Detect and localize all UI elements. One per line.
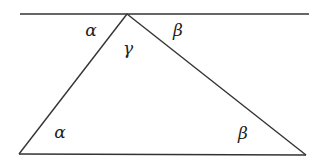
angle-label-beta-top: β — [173, 22, 183, 39]
diagram-lines — [0, 0, 319, 163]
angle-label-beta-bottom: β — [238, 125, 248, 142]
angle-label-gamma: γ — [123, 40, 133, 57]
triangle-right-side — [127, 14, 306, 155]
angle-label-alpha-top: α — [85, 22, 96, 39]
angle-label-alpha-bottom: α — [54, 124, 65, 141]
triangle-base — [19, 154, 306, 155]
triangle-angle-diagram: α γ β α β — [0, 0, 319, 163]
triangle-left-side — [19, 14, 127, 154]
